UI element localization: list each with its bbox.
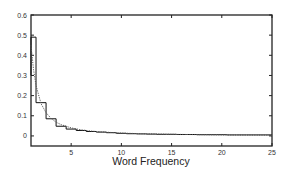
fitted-curve-line xyxy=(31,45,272,135)
x-tick-label: 25 xyxy=(268,149,276,156)
x-tick-label: 20 xyxy=(218,149,226,156)
y-tick-label: 0.1 xyxy=(17,112,27,119)
y-tick-label: 0.3 xyxy=(17,72,27,79)
plot-series xyxy=(31,37,272,135)
y-tick-label: 0.2 xyxy=(17,92,27,99)
x-axis-title: Word Frequency xyxy=(112,155,190,167)
empirical-step-line xyxy=(31,37,272,135)
y-tick-label: 0.5 xyxy=(17,32,27,39)
plot-border xyxy=(31,15,272,146)
y-axis: 00.10.20.30.40.50.6 xyxy=(17,12,272,140)
y-tick-label: 0 xyxy=(23,132,27,139)
word-frequency-chart: 00.10.20.30.40.50.6 510152025 Word Frequ… xyxy=(0,0,289,172)
x-tick-label: 5 xyxy=(69,149,73,156)
plot-frame xyxy=(31,15,272,146)
y-tick-label: 0.6 xyxy=(17,12,27,19)
y-tick-label: 0.4 xyxy=(17,52,27,59)
